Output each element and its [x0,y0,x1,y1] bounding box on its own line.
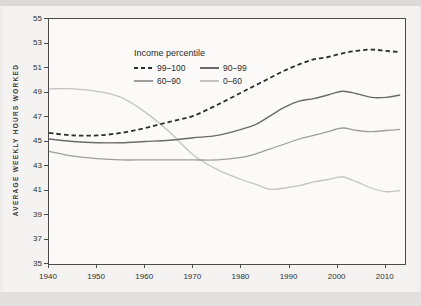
y-tick-label: 37 [20,234,42,243]
legend-item-label: 99–100 [157,63,185,73]
x-tick-label: 1970 [177,272,207,281]
legend-item: 90–99 [200,63,256,73]
series-line-60-90 [49,128,400,160]
y-tick-label: 55 [20,14,42,23]
legend-swatch-solid [200,80,219,82]
y-tick-label: 53 [20,38,42,47]
x-tick-label: 1950 [81,272,111,281]
legend-items: 99–10090–9960–900–60 [134,61,256,87]
y-tick-label: 39 [20,210,42,219]
y-tick-label: 47 [20,112,42,121]
legend-item-label: 60–90 [157,76,181,86]
x-tick-label: 1940 [33,272,63,281]
legend-item: 99–100 [134,63,196,73]
legend-item: 0–60 [200,76,256,86]
plot-area: Income percentile 99–10090–9960–900–60 [48,18,406,265]
legend-swatch-dashed [134,67,153,69]
legend-swatch-solid [134,80,153,82]
y-tick-label: 41 [20,185,42,194]
y-tick-label: 45 [20,136,42,145]
y-tick-label: 49 [20,87,42,96]
y-tick-label: 35 [20,259,42,268]
legend-item: 60–90 [134,76,196,86]
series-line-0-60 [49,89,400,192]
legend-title: Income percentile [134,48,256,58]
legend-item-label: 90–99 [223,63,247,73]
legend-swatch-solid [200,67,219,69]
x-tick-label: 2010 [370,272,400,281]
legend: Income percentile 99–10090–9960–900–60 [134,48,256,87]
x-tick-label: 2000 [322,272,352,281]
y-tick-label: 51 [20,63,42,72]
y-tick-label: 43 [20,161,42,170]
scan-artifact-bottom [0,292,421,306]
x-tick-label: 1990 [274,272,304,281]
x-tick-label: 1980 [225,272,255,281]
x-tick-label: 1960 [129,272,159,281]
legend-item-label: 0–60 [223,76,242,86]
figure: { "figure": { "background_color": "#efee… [0,0,421,306]
